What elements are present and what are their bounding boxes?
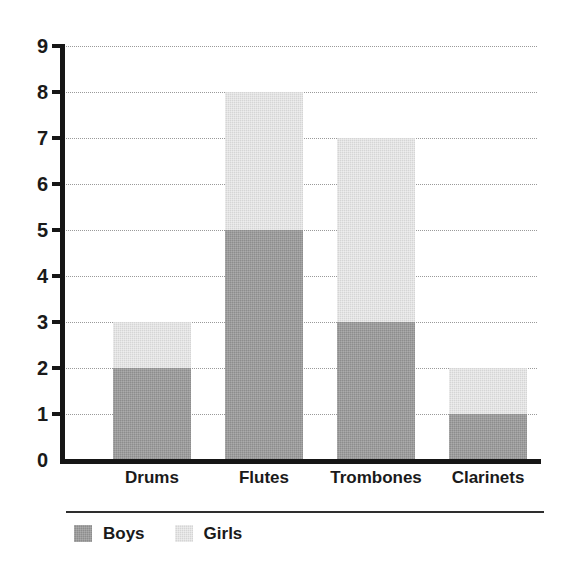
bar-drums-girls[interactable] (113, 322, 191, 368)
y-tick-mark-8 (52, 90, 62, 94)
y-tick-mark-5 (52, 228, 62, 232)
bar-flutes-boys[interactable] (225, 230, 303, 460)
gridline-9 (62, 46, 537, 47)
category-label-flutes: Flutes (204, 468, 324, 488)
bar-trombones-boys[interactable] (337, 322, 415, 460)
bar-clarinets[interactable] (449, 368, 527, 460)
bar-drums-boys[interactable] (113, 368, 191, 460)
category-label-drums: Drums (92, 468, 212, 488)
plot-area (62, 46, 537, 460)
y-tick-mark-9 (52, 44, 62, 48)
bar-drums[interactable] (113, 322, 191, 460)
x-axis-line (60, 459, 541, 464)
legend-swatch-girls-icon (175, 525, 193, 542)
y-tick-label-7: 7 (20, 128, 48, 148)
y-tick-mark-1 (52, 412, 62, 416)
y-tick-mark-6 (52, 182, 62, 186)
bar-clarinets-boys[interactable] (449, 414, 527, 460)
stacked-bar-chart: 9 8 7 6 5 4 3 2 1 0 Drums Flutes Trombon… (0, 0, 566, 576)
y-tick-label-0: 0 (20, 450, 48, 470)
y-tick-mark-2 (52, 366, 62, 370)
bar-flutes[interactable] (225, 92, 303, 460)
legend-item-girls[interactable]: Girls (175, 525, 243, 542)
legend-swatch-boys-icon (74, 525, 92, 542)
y-tick-label-1: 1 (20, 404, 48, 424)
y-tick-label-2: 2 (20, 358, 48, 378)
y-tick-label-8: 8 (20, 82, 48, 102)
legend: Boys Girls (74, 525, 242, 542)
y-tick-label-6: 6 (20, 174, 48, 194)
bar-trombones[interactable] (337, 138, 415, 460)
legend-item-boys[interactable]: Boys (74, 525, 145, 542)
y-tick-label-4: 4 (20, 266, 48, 286)
bar-clarinets-girls[interactable] (449, 368, 527, 414)
y-axis-line (60, 44, 65, 463)
legend-separator (66, 511, 544, 513)
y-tick-label-9: 9 (20, 36, 48, 56)
category-label-clarinets: Clarinets (428, 468, 548, 488)
y-tick-mark-3 (52, 320, 62, 324)
legend-label-boys: Boys (103, 525, 145, 542)
y-tick-mark-7 (52, 136, 62, 140)
bar-flutes-girls[interactable] (225, 92, 303, 230)
y-tick-label-5: 5 (20, 220, 48, 240)
y-tick-label-3: 3 (20, 312, 48, 332)
legend-label-girls: Girls (204, 525, 243, 542)
bar-trombones-girls[interactable] (337, 138, 415, 322)
category-label-trombones: Trombones (316, 468, 436, 488)
y-tick-mark-4 (52, 274, 62, 278)
